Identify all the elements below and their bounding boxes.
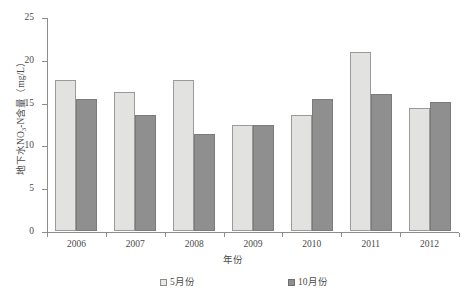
x-axis-label-2009: 2009 [224,238,283,251]
bar-group [350,17,392,231]
x-axis-label-2011: 2011 [341,238,400,251]
bar-2007-oct [135,115,156,231]
y-axis-tick-label: 25 [25,11,35,24]
x-axis-label-2008: 2008 [165,238,224,251]
bar-2012-may [409,108,430,231]
bar-2006-may [55,80,76,232]
bar-2009-may [232,125,253,231]
bar-2009-oct [253,125,274,231]
y-axis-tick-label: 10 [25,139,35,152]
x-axis-tick [400,233,401,237]
legend-label: 5月份 [170,275,195,289]
y-axis-tick: 5 [42,189,47,190]
bar-2010-oct [312,99,333,231]
y-axis-tick-label: 15 [25,97,35,110]
y-axis-tick: 15 [42,104,47,105]
bar-2011-may [350,52,371,231]
x-axis-label-2012: 2012 [400,238,459,251]
bar-2006-oct [76,99,97,231]
bar-group [173,17,215,231]
y-axis-title-prefix: 地下水NO [16,131,26,175]
bar-2007-may [114,92,135,231]
y-axis-tick: 25 [42,18,47,19]
y-axis-title-suffix: -N含量（mg/L） [16,57,26,128]
plot-area: 0510152025 [47,18,459,232]
legend-label: 10月份 [298,275,328,289]
bar-chart: 地下水NO3-N含量（mg/L） 0510152025 200620072008… [0,0,466,296]
x-axis-label-2006: 2006 [47,238,106,251]
bar-2008-oct [194,134,215,231]
x-axis-tick [341,233,342,237]
x-axis-tick [106,233,107,237]
bar-group [55,17,97,231]
y-axis-tick: 10 [42,146,47,147]
chart-legend: 5月份10月份 [0,275,466,291]
y-axis-tick-label: 20 [25,54,35,67]
x-axis-tick [459,233,460,237]
legend-swatch-icon [288,279,295,286]
y-axis-tick-label: 0 [29,225,34,238]
bar-group [114,17,156,231]
bar-2008-may [173,80,194,231]
bar-group [232,17,274,231]
x-axis-tick [165,233,166,237]
x-axis-label-2007: 2007 [106,238,165,251]
y-axis-line [47,18,48,233]
bar-group [409,17,451,231]
y-axis-title: 地下水NO3-N含量（mg/L） [14,0,28,232]
y-axis-tick-label: 5 [29,182,34,195]
bar-2012-oct [430,102,451,231]
x-axis-tick [224,233,225,237]
bar-group [291,17,333,231]
y-axis-title-subscript: 3 [20,128,28,132]
x-axis-label-2010: 2010 [282,238,341,251]
x-axis-tick [47,233,48,237]
y-axis-tick: 20 [42,61,47,62]
bar-2010-may [291,115,312,231]
x-axis-line [47,232,459,233]
x-axis-tick [282,233,283,237]
legend-item-oct[interactable]: 10月份 [288,275,328,289]
legend-swatch-icon [160,279,167,286]
legend-item-may[interactable]: 5月份 [160,275,195,289]
bar-2011-oct [371,94,392,231]
x-axis-title: 年份 [0,254,466,267]
